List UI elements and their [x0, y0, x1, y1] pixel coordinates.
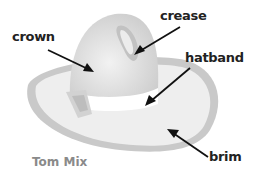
label-brim: brim [209, 149, 242, 164]
caption-tom-mix: Tom Mix [32, 155, 87, 169]
label-hatband: hatband [185, 50, 244, 65]
label-crown: crown [12, 29, 55, 44]
crown [70, 14, 158, 103]
label-crease: crease [160, 8, 206, 23]
